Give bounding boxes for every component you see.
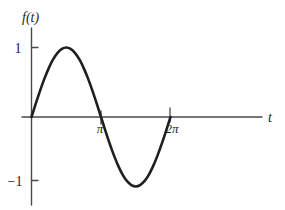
x-tick-label-2pi: 2π (165, 121, 179, 136)
x-axis-label: t (268, 110, 273, 125)
sine-wave-figure: f(t) t 1 −1 π 2π (0, 0, 285, 210)
y-tick-label-negative-one: −1 (8, 174, 23, 189)
x-tick-label-pi: π (97, 121, 104, 136)
y-axis-label: f(t) (22, 10, 39, 26)
y-tick-label-one: 1 (15, 41, 22, 56)
